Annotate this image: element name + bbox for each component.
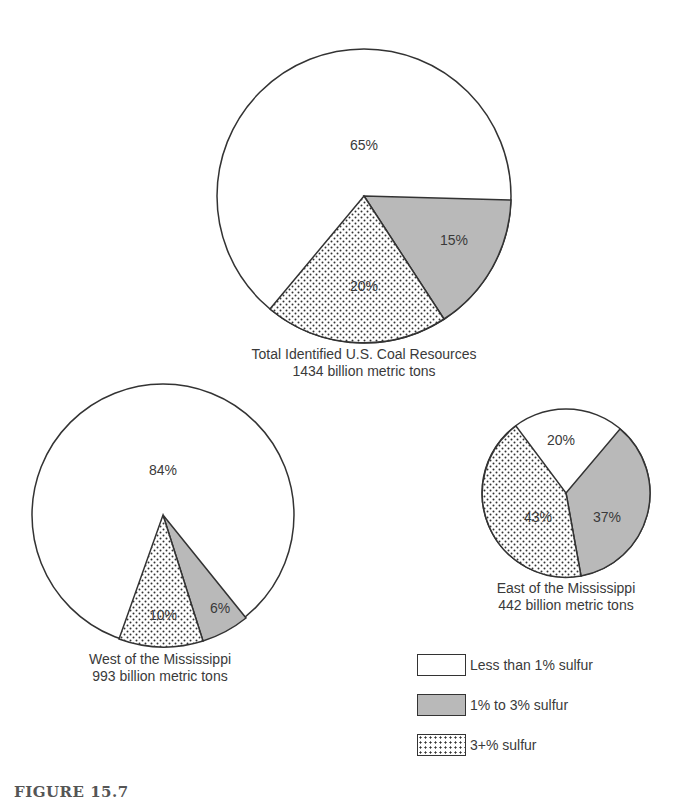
- label-east-low: 20%: [547, 432, 575, 448]
- legend-swatch-white: [417, 654, 466, 676]
- caption-west-subtitle: 993 billion metric tons: [60, 668, 260, 685]
- pie-total: 65% 15% 20%: [217, 49, 511, 343]
- legend-swatch-gray: [417, 694, 466, 716]
- legend-swatch-dots: [417, 734, 466, 756]
- figure-label: FIGURE 15.7: [14, 783, 129, 801]
- legend-item-high: 3+% sulfur: [417, 734, 537, 756]
- legend-item-low: Less than 1% sulfur: [417, 654, 593, 676]
- pie-west: 84% 6% 10%: [32, 384, 294, 647]
- pie-east: 20% 37% 43%: [482, 409, 650, 577]
- caption-east-subtitle: 442 billion metric tons: [466, 597, 666, 614]
- label-total-high: 20%: [350, 278, 378, 294]
- caption-total-subtitle: 1434 billion metric tons: [214, 363, 514, 380]
- caption-east-title: East of the Mississippi: [466, 580, 666, 597]
- legend-label-mid: 1% to 3% sulfur: [470, 697, 568, 713]
- label-west-low: 84%: [149, 462, 177, 478]
- label-west-high: 10%: [149, 607, 177, 623]
- caption-west: West of the Mississippi 993 billion metr…: [60, 651, 260, 685]
- label-total-mid: 15%: [440, 232, 468, 248]
- legend-label-high: 3+% sulfur: [470, 737, 537, 753]
- caption-total-title: Total Identified U.S. Coal Resources: [214, 346, 514, 363]
- caption-west-title: West of the Mississippi: [60, 651, 260, 668]
- label-east-high: 43%: [524, 509, 552, 525]
- label-total-low: 65%: [350, 137, 378, 153]
- label-east-mid: 37%: [593, 509, 621, 525]
- label-west-mid: 6%: [210, 600, 230, 616]
- pie-charts-canvas: 65% 15% 20% 84% 6% 10% 20% 37% 43%: [0, 0, 697, 807]
- caption-total: Total Identified U.S. Coal Resources 143…: [214, 346, 514, 380]
- legend-label-low: Less than 1% sulfur: [470, 657, 593, 673]
- legend-item-mid: 1% to 3% sulfur: [417, 694, 568, 716]
- caption-east: East of the Mississippi 442 billion metr…: [466, 580, 666, 614]
